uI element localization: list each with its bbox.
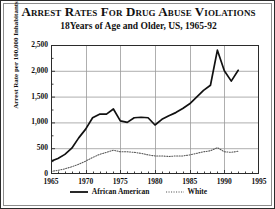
x-tick-label: 1970: [78, 178, 93, 186]
y-tick-label: 2,500: [31, 41, 48, 49]
chart-legend: African AmericanWhite: [1, 187, 275, 196]
plot-svg: [51, 45, 259, 174]
chart-subtitle: 18Years of Age and Older, US, 1965-92: [1, 21, 275, 32]
legend-item: White: [166, 187, 208, 196]
plot-area: 05001,0001,5002,0002,500 196519701975198…: [51, 45, 259, 174]
legend-item: African American: [70, 187, 150, 196]
y-axis-label: Arrest Rate per 100,000 Inhabitants: [10, 0, 22, 120]
legend-dotted-line-icon: [166, 189, 184, 195]
x-tick-label: 1965: [44, 178, 59, 186]
x-tick-label: 1995: [252, 178, 267, 186]
axis-ticks: [51, 46, 259, 175]
y-tick-label: 1,500: [31, 93, 48, 101]
legend-label: African American: [92, 187, 150, 196]
y-tick-label: 500: [37, 144, 48, 152]
x-tick-label: 1985: [182, 178, 197, 186]
chart-figure: Arrest Rates for Drug Abuse Violations 1…: [0, 0, 275, 209]
chart-title: Arrest Rates for Drug Abuse Violations: [1, 5, 275, 19]
y-tick-label: 1,000: [31, 118, 48, 126]
legend-solid-line-icon: [70, 189, 88, 195]
legend-label: White: [188, 187, 208, 196]
gridlines: [51, 45, 259, 174]
data-series: [51, 50, 238, 171]
x-tick-label: 1980: [148, 178, 163, 186]
series-line: [51, 148, 238, 172]
plot-border: [52, 46, 259, 174]
x-tick-label: 1975: [113, 178, 128, 186]
series-line: [51, 50, 238, 161]
x-tick-label: 1990: [217, 178, 232, 186]
y-tick-label: 2,000: [31, 67, 48, 75]
